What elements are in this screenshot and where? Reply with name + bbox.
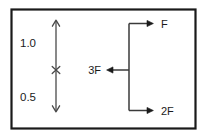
figure-canvas: 1.0 0.5 F 3F 2F [0, 0, 204, 136]
dimension-lower-label: 0.5 [20, 91, 36, 103]
dimension-upper-label: 1.0 [20, 37, 36, 49]
force-bottom-label: 2F [161, 105, 174, 117]
figure-container: 1.0 0.5 F 3F 2F [0, 0, 204, 136]
force-middle-label: 3F [88, 64, 101, 76]
force-top-label: F [161, 18, 168, 30]
